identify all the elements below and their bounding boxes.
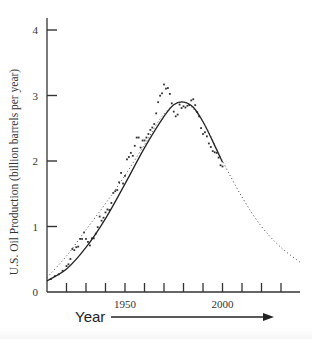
y-tick-label: 4 (33, 24, 39, 36)
x-axis: 19502000 (47, 283, 300, 310)
series-layer (47, 84, 301, 281)
y-axis-label: U.S. Oil Production (billion barrels per… (8, 69, 21, 275)
x-tick-label: 2000 (212, 298, 235, 310)
oil-production-chart: 01234 19502000 U.S. Oil Production (bill… (0, 0, 312, 339)
caption-cutoff (0, 330, 312, 339)
fitted-curve (47, 102, 223, 281)
projection-curve (47, 102, 301, 278)
y-tick-label: 1 (33, 221, 39, 233)
y-axis: 01234 (33, 18, 58, 298)
y-tick-label: 3 (33, 90, 39, 102)
x-axis-label: Year (75, 308, 105, 325)
y-tick-label: 0 (33, 286, 39, 298)
year-arrow-icon (111, 313, 274, 321)
x-tick-label: 1950 (114, 298, 137, 310)
y-tick-label: 2 (33, 155, 39, 167)
